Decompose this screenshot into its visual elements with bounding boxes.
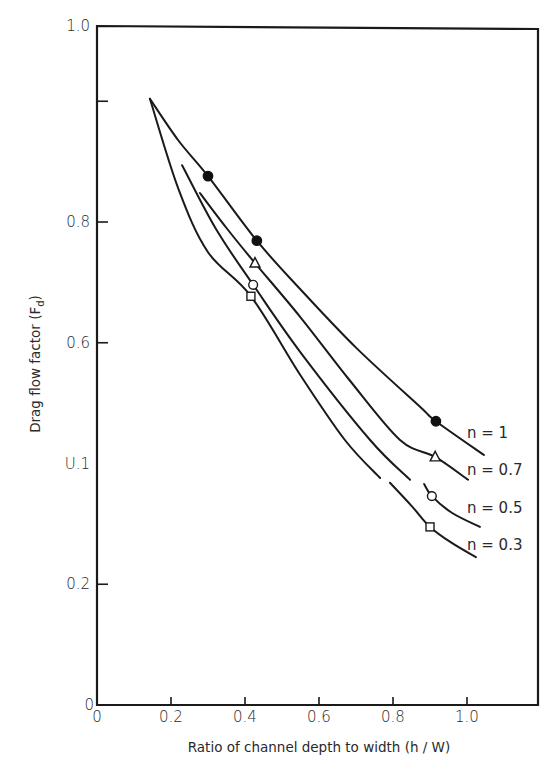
curve-n-0-7: [200, 193, 468, 480]
curve-n-0-3: [150, 99, 380, 478]
y-tick-label: 0.6: [66, 334, 90, 352]
series-label-n-0-3: n = 0.3: [467, 536, 522, 554]
y-axis-ticks: 00.2U.10.60.8: [65, 101, 108, 714]
open-circle-marker-icon: [427, 492, 436, 501]
series-labels: n = 1n = 0.7n = 0.5n = 0.3: [467, 424, 522, 554]
drag-flow-factor-chart: 00.2U.10.60.8 00.20.40.60.81.0 1.0 Ratio…: [0, 0, 558, 773]
x-tick-label: 1.0: [455, 708, 479, 726]
plot-border: [97, 26, 538, 705]
x-axis-title: Ratio of channel depth to width (h / W): [188, 739, 450, 755]
filled-circle-marker-icon: [431, 416, 441, 426]
open-square-marker-icon: [247, 292, 255, 300]
filled-circle-marker-icon: [203, 171, 213, 181]
x-tick-label: 0: [92, 708, 102, 726]
curve-n-0-5: [182, 165, 410, 480]
x-tick-label: 0.8: [381, 708, 405, 726]
x-tick-label: 0.2: [159, 708, 183, 726]
y-axis-title-close: ): [27, 295, 43, 300]
y-tick-label: 0.8: [66, 213, 90, 231]
filled-circle-marker-icon: [252, 236, 262, 246]
x-tick-label: 0.4: [233, 708, 257, 726]
series-markers: [203, 171, 441, 531]
y-axis-title: Drag flow factor (Fd): [27, 295, 46, 433]
y-tick-label: U.1: [65, 455, 90, 473]
plot-frame: [97, 26, 538, 705]
series-label-n-0-5: n = 0.5: [467, 499, 522, 517]
series-label-n-0-7: n = 0.7: [467, 461, 522, 479]
open-circle-marker-icon: [249, 280, 258, 289]
open-square-marker-icon: [426, 523, 434, 531]
x-tick-label: 0.6: [307, 708, 331, 726]
y-axis-title-main: Drag flow factor (F: [27, 307, 43, 433]
series-label-n-1: n = 1: [467, 424, 508, 442]
x-axis-ticks: 00.20.40.60.81.0: [92, 697, 479, 726]
series-curves: [150, 99, 484, 557]
y-top-label: 1.0: [66, 17, 90, 35]
y-tick-label: 0.2: [66, 575, 90, 593]
